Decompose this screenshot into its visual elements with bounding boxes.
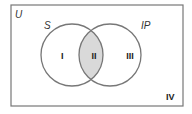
venn-diagram: U S IP I II III IV	[0, 0, 192, 114]
region-label-iv: IV	[166, 92, 175, 102]
set-label-ip: IP	[141, 20, 151, 31]
region-label-iii: III	[126, 51, 134, 61]
region-label-ii: II	[91, 51, 96, 61]
region-label-i: I	[61, 51, 64, 61]
set-label-s: S	[44, 20, 51, 31]
universe-label: U	[15, 9, 23, 20]
